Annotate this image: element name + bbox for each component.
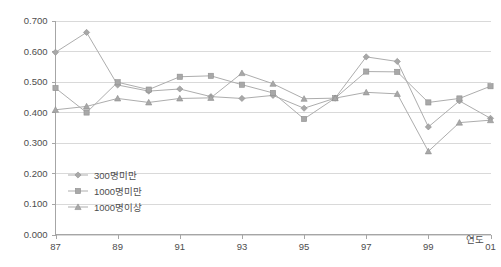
chart-canvas: 0.0000.1000.2000.3000.4000.5000.6000.700… xyxy=(0,0,501,267)
y-tick-label-5: 0.500 xyxy=(24,76,48,87)
y-tick-label-0: 0.000 xyxy=(24,229,48,240)
x-tick-label-6: 99 xyxy=(423,241,434,252)
legend: 300명미만1000명미만1000명이상 xyxy=(68,170,142,213)
data-point-s2-12 xyxy=(426,100,431,105)
series-2 xyxy=(53,69,493,122)
legend-item-2[interactable]: 1000명미만 xyxy=(68,186,142,197)
data-series xyxy=(52,29,493,154)
x-tick-label-4: 95 xyxy=(299,241,310,252)
legend-label-1: 300명미만 xyxy=(94,170,137,181)
x-tick-label-2: 91 xyxy=(174,241,185,252)
legend-item-3[interactable]: 1000명이상 xyxy=(68,202,142,213)
data-point-s1-11 xyxy=(394,58,400,64)
data-point-s2-5 xyxy=(208,73,213,78)
x-tick-label-0: 87 xyxy=(50,241,61,252)
data-point-s2-2 xyxy=(115,80,120,85)
data-point-s1-6 xyxy=(239,95,245,101)
line-chart: 0.0000.1000.2000.3000.4000.5000.6000.700… xyxy=(0,0,501,267)
data-point-s2-0 xyxy=(53,85,58,90)
y-tick-label-4: 0.400 xyxy=(24,107,48,118)
x-axis-title: 연도 xyxy=(466,234,484,245)
legend-item-1[interactable]: 300명미만 xyxy=(68,170,137,181)
legend-marker-1 xyxy=(75,172,81,178)
data-point-s1-8 xyxy=(301,105,307,111)
data-point-s2-4 xyxy=(177,74,182,79)
y-axis-tick-labels: 0.0000.1000.2000.3000.4000.5000.6000.700 xyxy=(24,15,48,240)
data-point-s2-14 xyxy=(488,84,493,89)
data-point-s2-6 xyxy=(239,82,244,87)
y-tick-label-6: 0.600 xyxy=(24,46,48,57)
data-point-s2-7 xyxy=(270,90,275,95)
data-point-s3-2 xyxy=(115,95,121,101)
data-point-s2-8 xyxy=(301,116,306,121)
x-tick-label-7: 01 xyxy=(485,241,496,252)
data-point-s1-1 xyxy=(83,29,89,35)
data-point-s2-10 xyxy=(364,69,369,74)
data-point-s3-6 xyxy=(239,70,245,76)
data-point-s1-0 xyxy=(52,49,58,55)
legend-label-2: 1000명미만 xyxy=(94,186,142,197)
x-tick-label-1: 89 xyxy=(112,241,123,252)
data-point-s1-4 xyxy=(177,86,183,92)
data-point-s2-11 xyxy=(395,69,400,74)
x-tick-label-3: 93 xyxy=(237,241,248,252)
legend-marker-2 xyxy=(75,188,80,193)
x-tick-label-5: 97 xyxy=(361,241,372,252)
data-point-s2-3 xyxy=(146,87,151,92)
x-axis-tick-labels: 8789919395979901 xyxy=(50,241,496,252)
legend-label-3: 1000명이상 xyxy=(94,202,142,213)
y-tick-label-3: 0.300 xyxy=(24,137,48,148)
y-tick-label-1: 0.100 xyxy=(24,198,48,209)
data-point-s2-1 xyxy=(84,110,89,115)
data-point-s2-13 xyxy=(457,96,462,101)
y-tick-label-7: 0.700 xyxy=(24,15,48,26)
y-tick-label-2: 0.200 xyxy=(24,168,48,179)
